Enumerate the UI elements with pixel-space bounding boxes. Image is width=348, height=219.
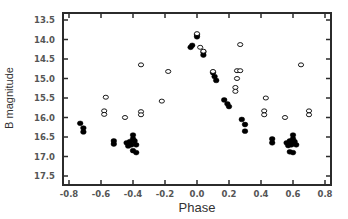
x-tick-label: -0.6 <box>92 189 111 199</box>
open-data-point <box>122 116 127 120</box>
open-data-point <box>103 95 108 99</box>
y-tick-label: 13.5 <box>34 15 55 25</box>
x-tick-label: 0.2 <box>221 189 236 199</box>
light-curve-chart: -0.8-0.6-0.4-0.20.00.20.40.60.8 13.514.0… <box>0 0 348 219</box>
filled-data-point <box>213 78 219 83</box>
open-data-point <box>210 69 215 73</box>
series-open <box>102 32 312 120</box>
open-data-point <box>298 63 303 67</box>
filled-data-point <box>242 129 248 134</box>
x-tick-label: -0.2 <box>156 189 175 199</box>
open-data-point <box>306 109 311 113</box>
open-data-point <box>233 89 238 93</box>
open-data-point <box>238 43 243 47</box>
open-data-point <box>201 49 206 53</box>
open-data-point <box>306 113 311 117</box>
open-data-point <box>262 109 267 113</box>
y-axis-title: B magnitude <box>3 67 15 129</box>
x-tick-label: 0.8 <box>317 189 332 199</box>
open-data-point <box>233 85 238 89</box>
open-data-point <box>263 96 268 100</box>
filled-data-point <box>290 150 296 155</box>
y-tick-label: 17.0 <box>34 152 55 162</box>
filled-data-point <box>133 150 139 155</box>
filled-data-point <box>77 121 83 126</box>
y-tick-label: 16.5 <box>34 132 55 142</box>
open-data-point <box>234 77 239 81</box>
x-tick-label: -0.4 <box>124 189 143 199</box>
filled-data-point <box>81 130 87 135</box>
open-data-point <box>194 32 199 36</box>
filled-data-point <box>226 104 232 109</box>
data-series <box>77 32 311 155</box>
x-tick-label: 0.4 <box>253 189 268 199</box>
y-axis-ticks: 13.514.014.515.015.516.016.517.017.5 <box>34 15 331 181</box>
filled-data-point <box>293 142 299 147</box>
open-data-point <box>198 45 203 49</box>
y-tick-label: 14.5 <box>34 54 55 64</box>
filled-data-point <box>133 142 139 147</box>
y-tick-label: 14.0 <box>34 35 55 45</box>
open-data-point <box>166 69 171 73</box>
filled-data-point <box>242 122 248 127</box>
filled-data-point <box>111 142 117 147</box>
y-tick-label: 15.0 <box>34 74 55 84</box>
open-data-point <box>102 112 107 116</box>
open-data-point <box>138 113 143 117</box>
y-tick-label: 16.0 <box>34 113 55 123</box>
series-filled <box>77 32 299 155</box>
filled-data-point <box>239 117 245 122</box>
x-tick-label: 0.6 <box>285 189 300 199</box>
y-tick-label: 17.5 <box>34 171 55 181</box>
open-data-point <box>238 69 243 73</box>
open-data-point <box>138 63 143 67</box>
open-data-point <box>262 113 267 117</box>
filled-data-point <box>188 45 194 50</box>
y-tick-label: 15.5 <box>34 93 55 103</box>
filled-data-point <box>269 140 275 145</box>
x-axis-ticks: -0.8-0.6-0.4-0.20.00.20.40.60.8 <box>60 13 333 199</box>
x-tick-label: 0.0 <box>189 189 204 199</box>
open-data-point <box>282 116 287 120</box>
x-tick-label: -0.8 <box>60 189 79 199</box>
x-axis-title: Phase <box>179 200 216 215</box>
open-data-point <box>159 99 164 103</box>
